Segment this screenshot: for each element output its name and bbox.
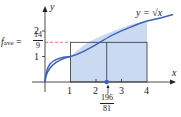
y-axis-label: y xyxy=(50,2,54,12)
fave-fraction: 14 9 xyxy=(33,31,43,50)
fave-den: 9 xyxy=(33,41,43,50)
curve-label: y = √x xyxy=(136,8,162,18)
y-axis-arrow xyxy=(43,6,48,12)
fave-eq: = xyxy=(16,36,22,47)
c-den: 81 xyxy=(100,104,114,113)
xtick-1-label: 1 xyxy=(67,86,72,96)
c-arrow-head xyxy=(107,85,110,89)
fave-sub: ave xyxy=(4,39,14,47)
c-num: 196 xyxy=(100,94,114,104)
c-fraction: 196 81 xyxy=(100,94,114,113)
fave-num: 14 xyxy=(33,31,43,41)
x-axis-arrow xyxy=(170,80,176,85)
c-point xyxy=(105,80,109,84)
x-axis-label: x xyxy=(172,68,176,78)
curve-start xyxy=(45,57,71,83)
xtick-2-label: 2 xyxy=(93,86,98,96)
xtick-4-label: 4 xyxy=(144,86,149,96)
fave-label: fave = xyxy=(1,37,22,47)
xtick-3-label: 3 xyxy=(119,86,124,96)
ytick-1-label: 1 xyxy=(34,52,39,62)
